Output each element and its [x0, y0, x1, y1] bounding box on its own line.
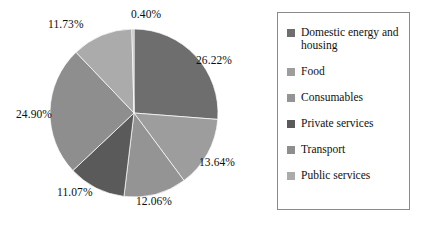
- legend-item-label: Private services: [301, 117, 374, 130]
- legend-item: Food: [287, 65, 403, 78]
- legend-swatch-icon: [287, 172, 295, 180]
- legend-item-label: Public services: [301, 169, 370, 182]
- pie-slice-percentage: 11.73%: [48, 18, 84, 30]
- pie-slice-percentage: 24.90%: [16, 108, 52, 120]
- legend-item-label: Domestic energy and housing: [301, 26, 403, 52]
- legend-swatch-icon: [287, 146, 295, 154]
- pie-plot-area: 26.22%13.64%12.06%11.07%24.90%11.73%0.40…: [0, 0, 268, 225]
- legend-swatch-icon: [287, 120, 295, 128]
- legend-swatch-icon: [287, 68, 295, 76]
- legend: Domestic energy and housingFoodConsumabl…: [277, 12, 410, 210]
- legend-item: Consumables: [287, 91, 403, 104]
- legend-swatch-icon: [287, 29, 295, 37]
- legend-item-label: Consumables: [301, 91, 363, 104]
- legend-item: Domestic energy and housing: [287, 26, 403, 52]
- pie-slice-percentage: 26.22%: [196, 54, 232, 66]
- legend-item-label: Food: [301, 65, 325, 78]
- pie-slice: [134, 29, 218, 119]
- legend-item: Transport: [287, 143, 403, 156]
- legend-items: Domestic energy and housingFoodConsumabl…: [287, 26, 403, 182]
- pie-slice-percentage: 12.06%: [136, 195, 172, 207]
- legend-item: Public services: [287, 169, 403, 182]
- legend-item-label: Transport: [301, 143, 345, 156]
- pie-slice-percentage: 0.40%: [131, 8, 161, 20]
- pie-chart: 26.22%13.64%12.06%11.07%24.90%11.73%0.40…: [0, 0, 422, 225]
- pie-slice-percentage: 11.07%: [57, 186, 93, 198]
- legend-item: Private services: [287, 117, 403, 130]
- legend-swatch-icon: [287, 94, 295, 102]
- pie-slices: [50, 29, 218, 197]
- pie-slice-percentage: 13.64%: [199, 156, 235, 168]
